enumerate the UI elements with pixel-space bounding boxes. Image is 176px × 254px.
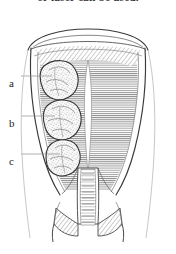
cervical-canal (80, 169, 96, 225)
label-a: a (9, 78, 14, 89)
upper-fibroid (40, 61, 78, 100)
middle-fibroid (43, 100, 81, 140)
caption-text: or laser can be used. (37, 0, 139, 3)
label-c: c (9, 156, 14, 167)
label-b: b (9, 118, 15, 129)
caption-clip: or laser can be used. (0, 0, 176, 8)
uterus-illustration-svg (0, 8, 176, 254)
uterus-illustration: a b c (0, 8, 176, 254)
lower-fibroid (46, 140, 80, 176)
figure-panel: or laser can be used. (0, 0, 176, 254)
